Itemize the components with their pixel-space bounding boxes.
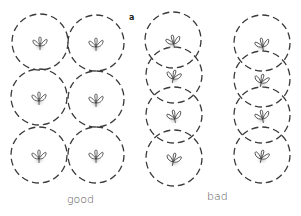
seedling-icon [165,69,182,86]
seedling-icon [165,34,181,51]
seedling-icon [254,109,270,126]
panel-label: a [129,13,134,22]
group-label-good: good [67,193,94,206]
seedling-icon [253,73,270,90]
seedling-icon [32,150,46,166]
seedling-icon [89,94,103,110]
seedling-icon [32,92,46,108]
seedling-icon [166,109,182,126]
seedling-icon [253,149,270,166]
diagram-canvas [0,0,301,216]
seedling-icon [33,37,47,53]
seedling-icon [254,37,270,54]
seedling-icon [89,150,103,166]
group-label-bad: bad [207,190,228,203]
seedling-icon [165,152,182,169]
spacing-circles [11,12,290,186]
seedling-icon [89,38,103,54]
planting-spacing-diagram: a good bad [0,0,301,216]
